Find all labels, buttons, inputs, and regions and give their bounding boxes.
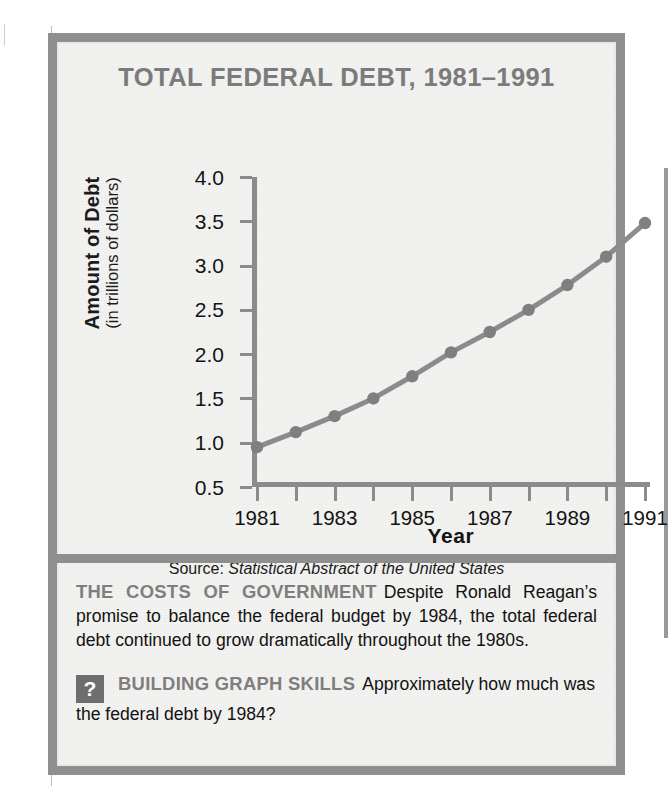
page-edge-mark bbox=[4, 24, 5, 46]
x-tick bbox=[605, 487, 608, 501]
series-data-point bbox=[484, 326, 496, 338]
caption-heading: THE COSTS OF GOVERNMENT bbox=[76, 581, 377, 602]
y-tick-label: 1.0 bbox=[195, 431, 224, 455]
series-data-point bbox=[406, 370, 418, 382]
series-markers bbox=[251, 217, 651, 453]
series-data-point bbox=[445, 346, 457, 358]
y-tick-label: 2.5 bbox=[195, 298, 224, 322]
y-tick-label: 1.5 bbox=[195, 386, 224, 410]
caption-paragraph: THE COSTS OF GOVERNMENTDespite Ronald Re… bbox=[76, 579, 597, 653]
y-tick: 1.5 bbox=[240, 397, 252, 400]
y-tick-label: 3.5 bbox=[195, 209, 224, 233]
y-tick: 4.0 bbox=[240, 176, 252, 179]
y-axis-label-sub: (in trillions of dollars) bbox=[104, 177, 122, 328]
x-axis-label: Year bbox=[252, 524, 650, 548]
x-tick bbox=[528, 487, 531, 501]
x-tick bbox=[372, 487, 375, 501]
series-data-point bbox=[600, 251, 612, 263]
y-tick-label: 4.0 bbox=[195, 165, 224, 189]
y-tick: 0.5 bbox=[240, 486, 252, 489]
series-line-chart bbox=[252, 177, 650, 487]
x-tick bbox=[566, 487, 569, 501]
x-tick bbox=[334, 487, 337, 501]
y-axis-label: Amount of Debt (in trillions of dollars) bbox=[79, 128, 125, 378]
y-tick-label: 2.0 bbox=[195, 342, 224, 366]
y-axis-label-main: Amount of Debt bbox=[82, 177, 104, 330]
series-data-point bbox=[367, 392, 379, 404]
y-tick: 1.0 bbox=[240, 442, 252, 445]
y-tick-label: 3.0 bbox=[195, 254, 224, 278]
chart-panel: TOTAL FEDERAL DEBT, 1981–1991 Amount of … bbox=[57, 42, 616, 554]
y-tick: 3.0 bbox=[240, 265, 252, 268]
question-mark-icon: ? bbox=[76, 675, 104, 703]
series-data-point bbox=[290, 426, 302, 438]
series-data-point bbox=[522, 304, 534, 316]
series-data-point bbox=[639, 217, 651, 229]
y-tick: 3.5 bbox=[240, 220, 252, 223]
chart-title: TOTAL FEDERAL DEBT, 1981–1991 bbox=[57, 63, 616, 92]
x-tick bbox=[411, 487, 414, 501]
caption-panel: THE COSTS OF GOVERNMENTDespite Ronald Re… bbox=[57, 563, 616, 766]
series-data-point bbox=[251, 441, 263, 453]
figure-box: TOTAL FEDERAL DEBT, 1981–1991 Amount of … bbox=[48, 33, 625, 775]
skills-heading: BUILDING GRAPH SKILLS bbox=[118, 673, 355, 694]
plot-right-rule bbox=[664, 168, 668, 638]
series-data-point bbox=[561, 279, 573, 291]
building-graph-skills-block: ?BUILDING GRAPH SKILLSApproximately how … bbox=[76, 671, 597, 727]
plot-area: 4.03.53.02.52.01.51.00.5 198119831985198… bbox=[252, 177, 650, 487]
y-tick: 2.0 bbox=[240, 353, 252, 356]
panel-divider bbox=[57, 554, 616, 563]
x-tick bbox=[256, 487, 259, 501]
figure-inner: TOTAL FEDERAL DEBT, 1981–1991 Amount of … bbox=[57, 42, 616, 766]
x-tick bbox=[489, 487, 492, 501]
series-line-path bbox=[257, 223, 645, 447]
x-tick bbox=[450, 487, 453, 501]
x-tick bbox=[644, 487, 647, 501]
y-tick-label: 0.5 bbox=[195, 475, 224, 499]
y-tick: 2.5 bbox=[240, 309, 252, 312]
series-data-point bbox=[328, 410, 340, 422]
x-tick bbox=[295, 487, 298, 501]
